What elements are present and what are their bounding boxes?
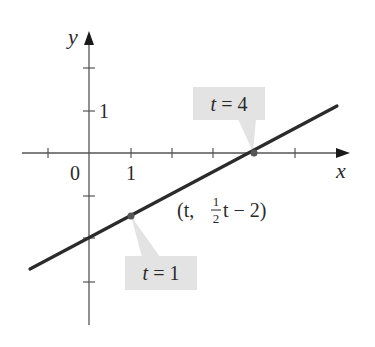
param-prefix: (t, (177, 199, 194, 222)
origin-label: 0 (70, 162, 80, 184)
frac-numerator: 1 (213, 194, 220, 209)
frac-denominator: 2 (213, 211, 220, 226)
param-suffix: t − 2) (223, 199, 267, 222)
callout-t4-text: t = 4 (211, 93, 248, 115)
x-axis-arrow-icon (336, 148, 350, 158)
x-axis (22, 148, 350, 158)
svg-text:(t,: (t, (177, 199, 194, 222)
parametric-line (30, 106, 337, 269)
callout-t4: t = 4 (193, 87, 265, 152)
x-axis-label: x (335, 158, 346, 183)
parametric-label: (t, 1 2 t − 2) (177, 194, 267, 226)
x-tick-label-1: 1 (126, 162, 136, 184)
callout-t1-text: t = 1 (143, 262, 180, 284)
y-axis-arrow-icon (84, 31, 94, 45)
y-axis (83, 31, 95, 325)
y-axis-label: y (66, 24, 78, 49)
point-t1 (128, 213, 135, 220)
y-tick-label-1: 1 (99, 100, 109, 122)
point-t4 (251, 150, 258, 157)
callout-t1: t = 1 (125, 216, 197, 290)
parametric-line-figure: y x 0 1 1 t = 4 t = 1 (t, 1 2 t − 2) (0, 0, 375, 347)
